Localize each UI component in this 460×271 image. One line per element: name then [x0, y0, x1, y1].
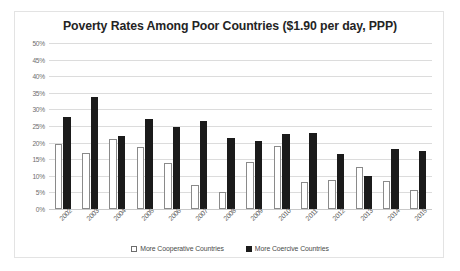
bar: [91, 97, 99, 209]
bar: [301, 182, 309, 209]
bar-group: [186, 43, 213, 209]
bar: [337, 154, 345, 209]
x-axis-tick-label: 2002: [58, 207, 73, 222]
y-axis-tick-label: 40%: [32, 73, 45, 80]
y-axis-tick-label: 10%: [32, 172, 45, 179]
x-axis-tick: 2015: [405, 209, 432, 245]
y-axis-tick-label: 5%: [36, 189, 45, 196]
x-axis-tick: 2012: [323, 209, 350, 245]
bar: [191, 185, 199, 209]
bar-group: [131, 43, 158, 209]
bar: [309, 133, 317, 209]
bar: [145, 119, 153, 209]
bar-group: [76, 43, 103, 209]
bar: [419, 151, 427, 209]
y-axis-tick-label: 45%: [32, 56, 45, 63]
x-axis-tick-label: 2009: [249, 207, 264, 222]
x-axis-tick-label: 2015: [413, 207, 428, 222]
x-axis-tick: 2006: [158, 209, 185, 245]
bar: [219, 192, 227, 209]
x-axis-tick: 2011: [295, 209, 322, 245]
x-axis-tick: 2009: [241, 209, 268, 245]
bar: [255, 141, 263, 209]
bar-group: [405, 43, 432, 209]
bar-group: [241, 43, 268, 209]
bar: [246, 162, 254, 209]
y-axis-tick-label: 0%: [36, 206, 45, 213]
x-axis-tick-label: 2008: [222, 207, 237, 222]
bar-group: [323, 43, 350, 209]
x-axis-tick: 2004: [104, 209, 131, 245]
y-axis-tick-label: 35%: [32, 89, 45, 96]
bar-group: [268, 43, 295, 209]
x-axis-tick-label: 2014: [386, 207, 401, 222]
bar: [82, 153, 90, 209]
x-axis-tick-label: 2011: [304, 207, 319, 222]
x-axis-tick: 2013: [350, 209, 377, 245]
bar: [364, 176, 372, 209]
x-axis-tick-label: 2013: [359, 207, 374, 222]
bar-group: [377, 43, 404, 209]
bar-group: [213, 43, 240, 209]
x-axis-tick: 2008: [213, 209, 240, 245]
bar: [137, 147, 145, 209]
bar: [227, 138, 235, 209]
legend-item: More Cooperative Countries: [131, 245, 224, 252]
legend-swatch: [131, 246, 137, 252]
y-axis-tick-label: 15%: [32, 156, 45, 163]
x-axis-tick-labels: 2002200320042005200620072008200920102011…: [49, 209, 432, 245]
bar-group: [158, 43, 185, 209]
x-axis-tick: 2014: [377, 209, 404, 245]
chart-title: Poverty Rates Among Poor Countries ($1.9…: [15, 19, 445, 33]
bar: [410, 190, 418, 209]
bar-group: [295, 43, 322, 209]
bar-group: [104, 43, 131, 209]
bar: [383, 181, 391, 209]
x-axis-tick-label: 2012: [331, 207, 346, 222]
y-axis-tick-label: 30%: [32, 106, 45, 113]
x-axis-tick-label: 2003: [85, 207, 100, 222]
bar: [274, 146, 282, 209]
plot-area: 50%45%40%35%30%25%20%15%10%5%0%: [49, 43, 432, 209]
x-axis-tick: 2002: [49, 209, 76, 245]
bar: [164, 163, 172, 209]
x-axis-tick-label: 2005: [140, 207, 155, 222]
y-axis-tick-label: 20%: [32, 139, 45, 146]
x-axis-tick: 2007: [186, 209, 213, 245]
bar: [63, 117, 71, 209]
legend-label: More Coercive Countries: [255, 245, 329, 252]
legend-swatch: [246, 246, 252, 252]
bar: [173, 127, 181, 209]
bar-group: [49, 43, 76, 209]
bar: [328, 180, 336, 209]
bar: [282, 134, 290, 209]
x-axis-tick-label: 2004: [112, 207, 127, 222]
chart-card: Poverty Rates Among Poor Countries ($1.9…: [14, 11, 444, 258]
legend-label: More Cooperative Countries: [140, 245, 224, 252]
bar: [391, 149, 399, 209]
bar: [356, 167, 364, 209]
x-axis-tick-label: 2010: [276, 207, 291, 222]
x-axis-tick-label: 2007: [194, 207, 209, 222]
x-axis-tick: 2010: [268, 209, 295, 245]
x-axis-tick: 2003: [76, 209, 103, 245]
x-axis-tick-label: 2006: [167, 207, 182, 222]
bar: [55, 144, 63, 209]
y-axis-tick-label: 25%: [32, 123, 45, 130]
legend-item: More Coercive Countries: [246, 245, 329, 252]
chart-legend: More Cooperative CountriesMore Coercive …: [15, 245, 445, 252]
y-axis-tick-label: 50%: [32, 40, 45, 47]
bar-groups: [49, 43, 432, 209]
bar: [109, 139, 117, 209]
bar: [200, 121, 208, 209]
bar-group: [350, 43, 377, 209]
bar: [118, 136, 126, 209]
x-axis-tick: 2005: [131, 209, 158, 245]
